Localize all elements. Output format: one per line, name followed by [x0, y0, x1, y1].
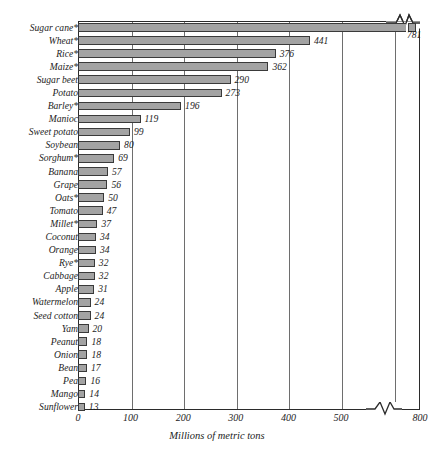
- bar-row: Potato273: [0, 86, 434, 99]
- bar: [78, 390, 85, 399]
- bar: [78, 193, 104, 202]
- bar-value-label: 34: [100, 243, 110, 256]
- category-label: Potato: [0, 86, 78, 99]
- bar: [78, 364, 87, 373]
- category-label: Mango: [0, 387, 78, 400]
- bar-row: Orange34: [0, 244, 434, 257]
- bar-row: Sugar cane*781: [0, 21, 434, 34]
- bar: [78, 233, 96, 242]
- bar-row: Grape56: [0, 178, 434, 191]
- x-tick-label: 200: [176, 412, 191, 423]
- category-label: Sugar beet: [0, 73, 78, 86]
- bar-row: Bean17: [0, 361, 434, 374]
- bar-value-label: 18: [91, 348, 101, 361]
- category-label: Tomato: [0, 204, 78, 217]
- bar-value-label: 17: [91, 361, 101, 374]
- bar-row: Watermelon24: [0, 296, 434, 309]
- x-tick-label: 800: [413, 412, 428, 423]
- category-label: Yam: [0, 322, 78, 335]
- bar-value-label: 18: [91, 335, 101, 348]
- bar-row: Wheat*441: [0, 34, 434, 47]
- bar-row: Tomato47: [0, 204, 434, 217]
- x-tick-label: 400: [281, 412, 296, 423]
- bar-row: Cabbage32: [0, 270, 434, 283]
- category-label: Watermelon: [0, 295, 78, 308]
- bar-row: Yam20: [0, 322, 434, 335]
- category-label: Rye*: [0, 256, 78, 269]
- bar-row: Sugar beet290: [0, 73, 434, 86]
- bar-value-label: 13: [89, 400, 99, 413]
- bar: [78, 141, 120, 150]
- category-label: Oats*: [0, 191, 78, 204]
- bar-value-label: 69: [118, 151, 128, 164]
- bar: [78, 206, 103, 215]
- bar-row: Soybean80: [0, 139, 434, 152]
- bar: [78, 285, 94, 294]
- bar-row: Sorghum*69: [0, 152, 434, 165]
- category-label: Wheat*: [0, 34, 78, 47]
- category-label: Rice*: [0, 47, 78, 60]
- bar: [78, 220, 97, 229]
- bar-row: Rice*376: [0, 47, 434, 60]
- bar-row: Pea16: [0, 375, 434, 388]
- bar-value-label: 37: [101, 217, 111, 230]
- bar-value-label: 56: [111, 178, 121, 191]
- bar: [78, 23, 406, 32]
- category-label: Sunflower: [0, 400, 78, 413]
- bar: [78, 403, 85, 412]
- category-label: Apple: [0, 282, 78, 295]
- bar: [78, 337, 87, 346]
- bar-row: Mango14: [0, 388, 434, 401]
- bar-row: Sunflower13: [0, 401, 434, 414]
- x-tick-label: 0: [76, 412, 81, 423]
- bar-value-label: 24: [95, 295, 105, 308]
- bar-value-label: 196: [185, 99, 199, 112]
- bar-value-label: 14: [89, 387, 99, 400]
- bar-row: Apple31: [0, 283, 434, 296]
- bar-row: Manioc119: [0, 113, 434, 126]
- bar: [78, 89, 222, 98]
- bar-row: Peanut18: [0, 335, 434, 348]
- bar-row: Sweet potato99: [0, 126, 434, 139]
- bar: [78, 272, 95, 281]
- bar-value-label: 362: [272, 60, 286, 73]
- bar-value-label: 119: [145, 112, 159, 125]
- bar-value-label: 32: [99, 256, 109, 269]
- x-axis-title: Millions of metric tons: [0, 430, 434, 441]
- category-label: Peanut: [0, 335, 78, 348]
- bar-value-label: 20: [93, 322, 103, 335]
- bar-row: Banana57: [0, 165, 434, 178]
- x-tick-label: 100: [123, 412, 138, 423]
- category-label: Soybean: [0, 138, 78, 151]
- category-label: Onion: [0, 348, 78, 361]
- category-label: Manioc: [0, 112, 78, 125]
- bar-value-label: 99: [134, 125, 144, 138]
- bar: [78, 246, 96, 255]
- category-label: Sorghum*: [0, 151, 78, 164]
- bar-value-label: 34: [100, 230, 110, 243]
- bar-value-label: 47: [107, 204, 117, 217]
- bar-rows: Sugar cane*781Wheat*441Rice*376Maize*362…: [0, 21, 434, 414]
- category-label: Millet*: [0, 217, 78, 230]
- bar: [78, 128, 130, 137]
- category-label: Grape: [0, 178, 78, 191]
- bar-row: Barley*196: [0, 100, 434, 113]
- bar-value-label: 57: [112, 165, 122, 178]
- bar-row: Maize*362: [0, 60, 434, 73]
- category-label: Bean: [0, 361, 78, 374]
- bar-value-label: 16: [90, 374, 100, 387]
- bar-value-label: 32: [99, 269, 109, 282]
- bar: [78, 298, 91, 307]
- bar-value-label: 376: [280, 47, 294, 60]
- category-label: Orange: [0, 243, 78, 256]
- bar: [78, 62, 268, 71]
- bar: [78, 49, 276, 58]
- bar: [78, 259, 95, 268]
- x-tick-label: 300: [228, 412, 243, 423]
- bar: [78, 377, 86, 386]
- category-label: Sugar cane*: [0, 21, 78, 34]
- bar-value-label: 80: [124, 138, 134, 151]
- bar-value-label: 273: [226, 86, 240, 99]
- bar-value-label: 31: [98, 282, 108, 295]
- bar-row: Rye*32: [0, 257, 434, 270]
